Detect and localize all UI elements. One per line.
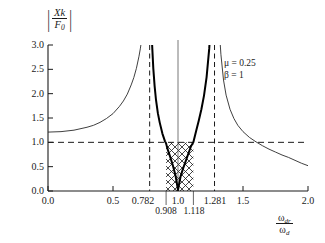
x-tick-label-1-118: 1.118: [174, 207, 214, 217]
x-tick-label-1-0: 1.0: [164, 196, 192, 206]
abs-bar-left-glyph: |: [47, 6, 50, 31]
y-tick-label-2-5: 2.5: [18, 64, 44, 74]
y-axis-fraction: Xk F0: [51, 7, 68, 30]
y-tick-label-0-0: 0.0: [18, 186, 44, 196]
x-axis-label: ωdr ωd: [276, 212, 293, 235]
y-axis-label: | Xk F0 |: [46, 6, 73, 31]
parameter-annotations: μ = 0.25 β = 1: [224, 58, 256, 82]
frequency-ratio-annotation: β = 1: [224, 70, 256, 80]
y-tick-label-2-0: 2.0: [18, 89, 44, 99]
y-tick-label-1-0: 1.0: [18, 137, 44, 147]
x-tick-label-0-0: 0.0: [34, 196, 62, 206]
primary-mass-response-segment-1: [216, 0, 308, 166]
y-tick-label-0-5: 0.5: [18, 162, 44, 172]
abs-bar-right-glyph: |: [69, 6, 72, 31]
y-tick-label-1-5: 1.5: [18, 113, 44, 123]
reference-lines: [48, 40, 308, 205]
x-tick-label-0-782: 0.782: [124, 196, 162, 206]
chart-figure: | Xk F0 | 3.0 2.5 2.0 1.5 1.0 0.5 0.0 0.…: [0, 0, 325, 243]
y-tick-label-3-0: 3.0: [18, 40, 44, 50]
x-tick-label-1-281: 1.281: [196, 196, 234, 206]
y-axis-ticks: [48, 45, 53, 191]
x-axis-numerator: ωdr: [276, 212, 293, 223]
x-tick-label-0-5: 0.5: [99, 196, 127, 206]
x-tick-label-2-0: 2.0: [294, 196, 322, 206]
mass-ratio-annotation: μ = 0.25: [224, 58, 256, 68]
y-axis-numerator: Xk: [52, 7, 67, 18]
y-axis-denominator: F0: [52, 18, 67, 30]
